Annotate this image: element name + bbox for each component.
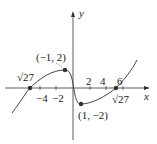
left-root-point (28, 86, 32, 90)
local-min-point (79, 102, 83, 106)
right-root-label: √27 (112, 94, 129, 105)
tick-label-4: 4 (100, 76, 106, 87)
function-graph: y x −4 −2 2 4 6 (−1, 2) (1, −2) √27 √27 (0, 0, 157, 144)
local-max-point (63, 68, 67, 72)
tick-label-m4: −4 (36, 93, 48, 104)
x-axis-label: x (144, 91, 149, 102)
max-point-label: (−1, 2) (36, 52, 66, 63)
tick-label-m2: −2 (52, 93, 64, 104)
y-axis-label: y (79, 8, 84, 19)
min-point-label: (1, −2) (78, 110, 108, 121)
left-root-label: √27 (17, 72, 34, 83)
max-leader-line (56, 63, 64, 69)
tick-label-2: 2 (86, 76, 92, 87)
y-axis-arrow-icon (71, 11, 75, 17)
tick-label-6: 6 (117, 76, 123, 87)
